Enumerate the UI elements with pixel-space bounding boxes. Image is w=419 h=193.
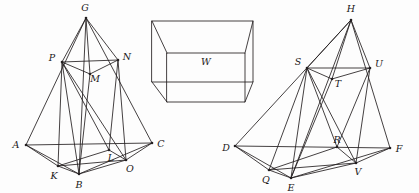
right-vertex-Q bbox=[268, 169, 271, 172]
right-label-H: H bbox=[346, 3, 356, 14]
left-edge-AC bbox=[26, 143, 152, 145]
right-vertex-T bbox=[331, 78, 334, 81]
left-label-A: A bbox=[12, 139, 20, 150]
left-tetrahedron: GPNMACKBLO bbox=[12, 2, 166, 190]
right-edge-QV bbox=[269, 163, 356, 170]
rectangular-box: W bbox=[152, 21, 253, 102]
left-edge-AK bbox=[26, 145, 58, 166]
right-vertex-F bbox=[389, 147, 392, 150]
right-label-V: V bbox=[355, 166, 363, 177]
right-label-F: F bbox=[395, 143, 403, 154]
right-vertex-S bbox=[306, 67, 309, 70]
left-label-L: L bbox=[107, 152, 114, 163]
figure-canvas: GPNMACKBLO W HSUTDFQERV bbox=[0, 0, 419, 193]
left-edge-KB bbox=[58, 166, 79, 174]
left-label-K: K bbox=[49, 170, 58, 181]
right-vertex-E bbox=[290, 177, 293, 180]
box-connector-3 bbox=[152, 82, 167, 102]
right-edge-DF bbox=[235, 146, 390, 148]
right-label-R: R bbox=[332, 134, 340, 145]
left-vertex-G bbox=[85, 17, 88, 20]
left-edge-GM bbox=[86, 18, 90, 74]
left-edge-CB bbox=[79, 143, 152, 174]
right-edge-FV bbox=[356, 148, 390, 163]
left-edge-GA bbox=[26, 18, 86, 145]
left-vertex-K bbox=[57, 165, 60, 168]
right-edge-QR bbox=[269, 147, 337, 170]
left-vertex-B bbox=[78, 173, 81, 176]
right-label-T: T bbox=[335, 78, 342, 89]
right-edge-HT bbox=[332, 20, 351, 79]
right-edge-HF bbox=[351, 20, 390, 148]
right-edge-HS bbox=[307, 20, 351, 68]
right-label-D: D bbox=[221, 142, 230, 153]
left-label-B: B bbox=[75, 179, 83, 190]
left-edge-PK bbox=[58, 62, 62, 166]
right-edge-RV bbox=[337, 147, 356, 163]
left-edge-GP bbox=[62, 18, 86, 62]
box-label-W: W bbox=[201, 56, 212, 67]
box-connector-2 bbox=[245, 82, 253, 102]
left-vertex-A bbox=[25, 144, 28, 147]
right-label-U: U bbox=[375, 58, 384, 69]
right-edge-HE bbox=[291, 20, 351, 178]
right-label-Q: Q bbox=[262, 174, 270, 185]
right-tetrahedron: HSUTDFQERV bbox=[221, 3, 403, 193]
box-connector-0 bbox=[152, 21, 167, 53]
left-label-P: P bbox=[48, 52, 56, 63]
right-edge-HU bbox=[351, 20, 370, 68]
right-edge-DQ bbox=[235, 146, 269, 170]
right-edge-UV bbox=[356, 68, 370, 163]
left-vertex-N bbox=[117, 59, 120, 62]
right-edge-FE bbox=[291, 148, 390, 178]
geometry-figure: GPNMACKBLO W HSUTDFQERV bbox=[0, 0, 419, 193]
right-edge-SQ bbox=[269, 68, 307, 170]
left-vertex-O bbox=[125, 159, 128, 162]
left-edge-NO bbox=[118, 60, 126, 160]
left-vertex-P bbox=[61, 61, 64, 64]
left-label-M: M bbox=[89, 73, 100, 84]
left-label-C: C bbox=[157, 138, 165, 149]
right-vertex-R bbox=[336, 146, 339, 149]
left-edge-PN bbox=[62, 60, 118, 62]
right-label-E: E bbox=[287, 182, 295, 193]
left-edge-CO bbox=[126, 143, 152, 160]
left-edge-GN bbox=[86, 18, 118, 60]
left-label-G: G bbox=[81, 2, 89, 13]
right-vertex-U bbox=[369, 67, 372, 70]
left-edge-NL bbox=[109, 60, 118, 150]
right-vertex-D bbox=[234, 145, 237, 148]
right-edge-UR bbox=[337, 68, 370, 147]
right-edge-QE bbox=[269, 170, 291, 178]
left-label-O: O bbox=[126, 163, 134, 174]
right-vertex-V bbox=[355, 162, 358, 165]
left-vertex-C bbox=[151, 142, 154, 145]
right-vertex-H bbox=[350, 19, 353, 22]
box-connector-1 bbox=[245, 21, 253, 53]
right-label-S: S bbox=[295, 56, 302, 67]
left-label-N: N bbox=[122, 51, 132, 62]
